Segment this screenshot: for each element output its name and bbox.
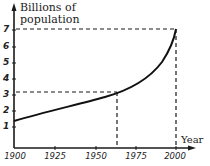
y-tick-label: 3 — [3, 89, 9, 99]
x-tick-label: 1975 — [125, 151, 147, 161]
y-tick-label: 1 — [3, 121, 9, 131]
x-axis-title: Year — [181, 134, 203, 145]
y-tick-label: 4 — [3, 73, 9, 83]
y-axis-arrow-icon — [12, 3, 17, 11]
y-tick-label: 5 — [3, 57, 9, 67]
y-tick-label: 6 — [3, 41, 9, 51]
population-curve — [14, 29, 176, 121]
y-axis-title: Billions of population — [20, 2, 80, 26]
x-tick-label: 1925 — [44, 151, 66, 161]
x-tick-label: 1950 — [85, 151, 107, 161]
y-tick-label: 7 — [3, 24, 9, 34]
dashed-guides — [16, 29, 176, 148]
x-tick-label: 1900 — [4, 151, 26, 161]
x-tick-label: 2000 — [164, 151, 186, 161]
population-chart: Billions of population Year 7 6 5 4 3 2 … — [0, 0, 210, 166]
y-axis-title-line2: population — [20, 14, 80, 26]
x-axis-arrow-icon — [188, 146, 196, 151]
y-tick-label: 2 — [3, 105, 9, 115]
